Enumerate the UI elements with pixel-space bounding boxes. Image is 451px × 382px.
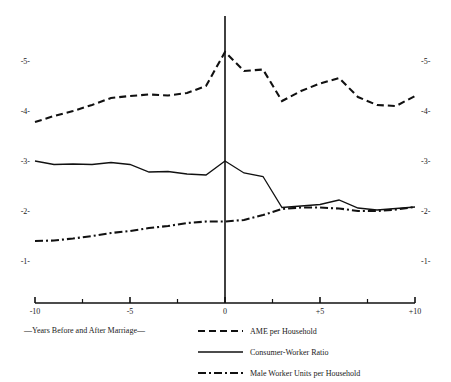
legend-label-1: AME per Household bbox=[250, 327, 317, 336]
y-tick-label-right: -3- bbox=[421, 157, 431, 166]
x-tick-label: +10 bbox=[409, 307, 422, 316]
axis-caption: —Years Before and After Marriage— bbox=[23, 326, 146, 335]
x-tick-label: 0 bbox=[223, 307, 227, 316]
y-tick-label-left: -1- bbox=[21, 257, 31, 266]
y-tick-label-right: -1- bbox=[421, 257, 431, 266]
legend-label-3: Male Worker Units per Household bbox=[250, 369, 360, 378]
y-tick-label-right: -4- bbox=[421, 107, 431, 116]
y-tick-label-right: -5- bbox=[421, 57, 431, 66]
y-tick-label-left: -5- bbox=[21, 57, 31, 66]
legend-label-2: Consumer-Worker Ratio bbox=[250, 348, 329, 357]
chart-legend: AME per HouseholdConsumer-Worker RatioMa… bbox=[198, 327, 360, 378]
x-tick-label: -5 bbox=[127, 307, 134, 316]
x-tick-label: -10 bbox=[30, 307, 41, 316]
y-tick-label-left: -4- bbox=[21, 107, 31, 116]
y-tick-label-left: -3- bbox=[21, 157, 31, 166]
y-tick-label-left: -2- bbox=[21, 207, 31, 216]
y-tick-label-right: -2- bbox=[421, 207, 431, 216]
axes bbox=[35, 16, 415, 303]
chart-figure: -10-50+5+10-1--1--2--2--3--3--4--4--5--5… bbox=[0, 0, 451, 382]
x-tick-label: +5 bbox=[316, 307, 325, 316]
line-chart-canvas: -10-50+5+10-1--1--2--2--3--3--4--4--5--5… bbox=[0, 0, 451, 382]
x-axis-caption: —Years Before and After Marriage— bbox=[23, 326, 146, 335]
